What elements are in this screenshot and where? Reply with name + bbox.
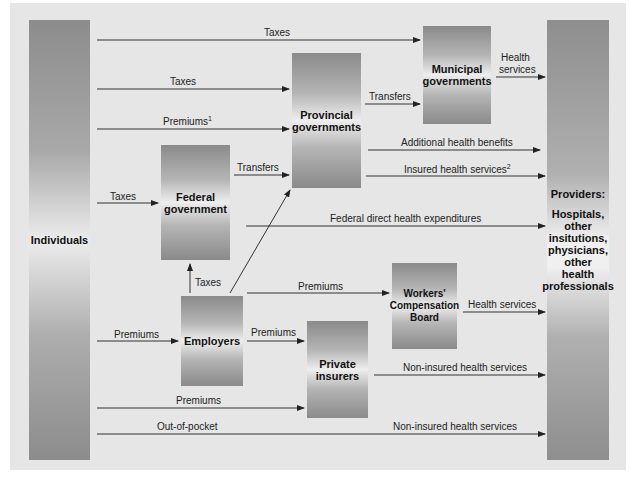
insured-text: Insured health services (404, 164, 507, 175)
municipal-label-line1: Municipal (432, 63, 483, 75)
wcb-label-line1: Workers' (403, 288, 445, 300)
edge-label-premiums-individuals-private: Premiums (176, 395, 221, 406)
edge-label-health-services-wcb: Health services (468, 299, 536, 310)
edge-label-out-of-pocket: Out-of-pocket (157, 421, 218, 432)
employers-box: Employers (181, 296, 243, 386)
edge-label-premiums-private: Premiums (251, 327, 296, 338)
providers-title: Providers: (551, 188, 605, 200)
workers-compensation-board-box: Workers' Compensation Board (392, 263, 457, 349)
individuals-box: Individuals (29, 20, 90, 460)
edge-label-premiums-provincial: Premiums1 (163, 116, 212, 127)
wcb-label-line2: Compensation (390, 300, 459, 312)
wcb-label-line3: Board (410, 312, 439, 324)
edge-label-transfers-provincial: Transfers (369, 91, 411, 102)
edge-label-non-insured-private: Non-insured health services (403, 362, 527, 373)
edge-label-non-insured-out-of-pocket: Non-insured health services (393, 421, 517, 432)
individuals-label: Individuals (31, 234, 88, 246)
private-label-line2: insurers (316, 370, 359, 382)
edge-label-federal-direct: Federal direct health expenditures (330, 213, 481, 224)
edge-label-health-services-municipal-2: services (499, 64, 536, 75)
edge-label-taxes-municipal: Taxes (264, 27, 290, 38)
provincial-governments-box: Provincial governments (292, 53, 361, 188)
footnote-2: 2 (507, 163, 511, 170)
edge-label-taxes-provincial: Taxes (170, 76, 196, 87)
edge-label-taxes-employers: Taxes (195, 277, 221, 288)
edge-label-additional-benefits: Additional health benefits (401, 137, 513, 148)
provincial-label-line2: governments (292, 121, 361, 133)
edge-label-taxes-federal: Taxes (110, 191, 136, 202)
provincial-label-line1: Provincial (300, 109, 353, 121)
providers-line: professionals (542, 280, 614, 292)
federal-label-line2: government (164, 203, 227, 215)
edge-label-premiums-employers: Premiums (114, 329, 159, 340)
federal-government-box: Federal government (161, 145, 230, 260)
edge-label-health-services-municipal-1: Health (501, 52, 530, 63)
private-label-line1: Private (319, 358, 356, 370)
providers-line: physicians, (548, 244, 608, 256)
providers-line: other (564, 256, 592, 268)
providers-line: other (564, 220, 592, 232)
footnote-1: 1 (208, 115, 212, 122)
providers-line: health (562, 268, 594, 280)
municipal-governments-box: Municipal governments (423, 26, 491, 124)
federal-label-line1: Federal (176, 191, 215, 203)
edge-label-premiums-wcb: Premiums (298, 281, 343, 292)
edge-label-insured-services: Insured health services2 (404, 164, 511, 175)
employers-label: Employers (184, 335, 240, 347)
providers-box: Providers: Hospitals, other insitutions,… (547, 20, 609, 460)
providers-line: insitutions, (549, 232, 608, 244)
providers-line: Hospitals, (552, 208, 605, 220)
premiums-text: Premiums (163, 116, 208, 127)
edge-label-transfers-federal: Transfers (237, 162, 279, 173)
municipal-label-line2: governments (422, 75, 491, 87)
private-insurers-box: Private insurers (307, 321, 368, 418)
